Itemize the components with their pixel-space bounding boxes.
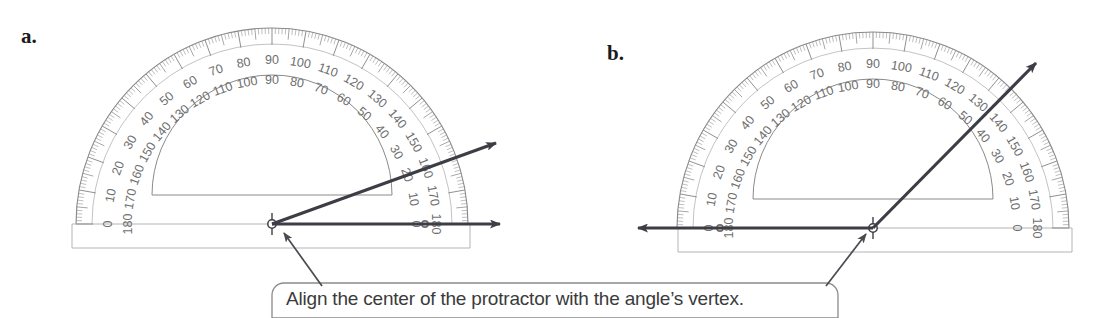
protractor-tick xyxy=(893,33,894,39)
protractor-tick xyxy=(180,51,183,56)
protractor-tick xyxy=(362,54,371,69)
protractor-tick xyxy=(971,60,974,65)
protractor-tick xyxy=(1028,130,1043,139)
protractor-tick xyxy=(97,135,102,138)
protractor-tick xyxy=(976,64,979,69)
protractor-tick xyxy=(904,35,907,52)
protractor-tick xyxy=(744,80,748,85)
scale-label-outer: 90 xyxy=(265,53,279,67)
protractor-tick xyxy=(703,130,718,139)
protractor-tick xyxy=(1042,139,1047,142)
protractor-tick xyxy=(392,72,396,77)
protractor-tick xyxy=(413,93,417,97)
protractor-tick xyxy=(1039,133,1044,136)
protractor-tick xyxy=(81,180,87,181)
protractor-tick xyxy=(108,117,113,120)
protractor-tick xyxy=(202,41,204,47)
protractor-tick xyxy=(245,30,246,36)
protractor-tick xyxy=(1062,208,1068,209)
protractor-tick xyxy=(102,126,117,135)
protractor-tick xyxy=(440,141,450,146)
protractor-tick xyxy=(403,85,411,93)
protractor-tick xyxy=(1023,107,1028,111)
protractor-tick xyxy=(826,38,827,44)
scale-label-inner: 40 xyxy=(372,122,392,142)
protractor-tick xyxy=(689,161,705,167)
protractor-tick xyxy=(189,46,194,56)
protractor-tick xyxy=(1049,155,1055,157)
protractor-tick xyxy=(138,81,142,85)
protractor-tick xyxy=(453,163,459,165)
protractor-tick xyxy=(131,88,135,92)
protractor-tick xyxy=(328,37,330,43)
protractor-tick xyxy=(460,193,466,194)
protractor-tick xyxy=(96,138,101,141)
protractor-tick xyxy=(685,174,691,176)
protractor-tick xyxy=(386,67,390,72)
protractor-tick xyxy=(387,74,398,87)
protractor-tick xyxy=(88,157,104,163)
protractor-tick xyxy=(452,160,458,162)
protractor-tick xyxy=(324,36,326,42)
figure-label-a: a. xyxy=(21,24,37,49)
protractor-tick xyxy=(358,49,361,54)
protractor-tick xyxy=(77,200,83,201)
protractor-tick xyxy=(420,101,425,105)
protractor-tick xyxy=(956,52,959,57)
protractor-tick xyxy=(86,163,92,165)
protractor-tick xyxy=(238,31,241,48)
protractor-tick xyxy=(435,123,440,126)
scale-label-inner: 60 xyxy=(935,94,954,113)
protractor-tick xyxy=(1025,110,1030,114)
protractor-tick xyxy=(195,44,197,50)
scale-label-outer: 0 xyxy=(101,220,115,227)
protractor-tick xyxy=(461,204,467,205)
protractor-tick xyxy=(85,167,91,169)
protractor-tick xyxy=(235,32,236,38)
protractor-tick xyxy=(752,74,756,79)
protractor-tick xyxy=(113,109,118,113)
protractor-tick xyxy=(856,33,857,44)
protractor-tick xyxy=(711,118,716,121)
protractor-tick xyxy=(716,110,721,114)
protractor-tick xyxy=(451,173,462,176)
protractor-tick xyxy=(965,57,968,62)
protractor-tick xyxy=(941,45,943,51)
protractor-tick xyxy=(118,103,123,107)
protractor-tick xyxy=(1000,82,1004,86)
protractor-tick xyxy=(742,82,746,86)
protractor-tick xyxy=(448,151,454,153)
protractor-tick xyxy=(1052,177,1063,180)
protractor-tick xyxy=(1012,94,1016,98)
scale-label-outer: 150 xyxy=(402,130,425,155)
protractor-tick xyxy=(461,200,467,201)
protractor-tick xyxy=(110,114,115,117)
protractor-tick xyxy=(375,60,378,65)
protractor-tick xyxy=(355,48,358,53)
protractor-tick xyxy=(449,154,455,156)
protractor-tick xyxy=(211,38,213,44)
scale-label-inner: 140 xyxy=(751,123,775,148)
protractor-tick xyxy=(1010,102,1023,113)
protractor-tick xyxy=(424,106,429,110)
scale-label-outer: 180 xyxy=(1030,218,1044,239)
protractor-tick xyxy=(679,197,685,198)
protractor-tick xyxy=(87,160,93,162)
protractor-tick xyxy=(684,177,695,180)
protractor-tick xyxy=(82,177,88,178)
protractor-tick xyxy=(430,114,435,117)
protractor-tick xyxy=(678,204,684,205)
protractor-tick xyxy=(389,70,393,75)
protractor-tick xyxy=(896,33,897,39)
scale-label-inner: 170 xyxy=(723,192,740,215)
protractor-tick xyxy=(686,171,692,173)
protractor-tick xyxy=(143,76,147,81)
protractor-tick xyxy=(987,71,991,76)
scale-label-outer: 90 xyxy=(866,57,880,71)
scale-label-inner: 50 xyxy=(956,108,976,128)
scale-label-inner: 80 xyxy=(890,78,906,94)
protractor-tick xyxy=(384,65,388,70)
protractor-tick xyxy=(959,53,962,58)
protractor-tick xyxy=(839,35,842,52)
protractor-tick xyxy=(397,76,401,81)
